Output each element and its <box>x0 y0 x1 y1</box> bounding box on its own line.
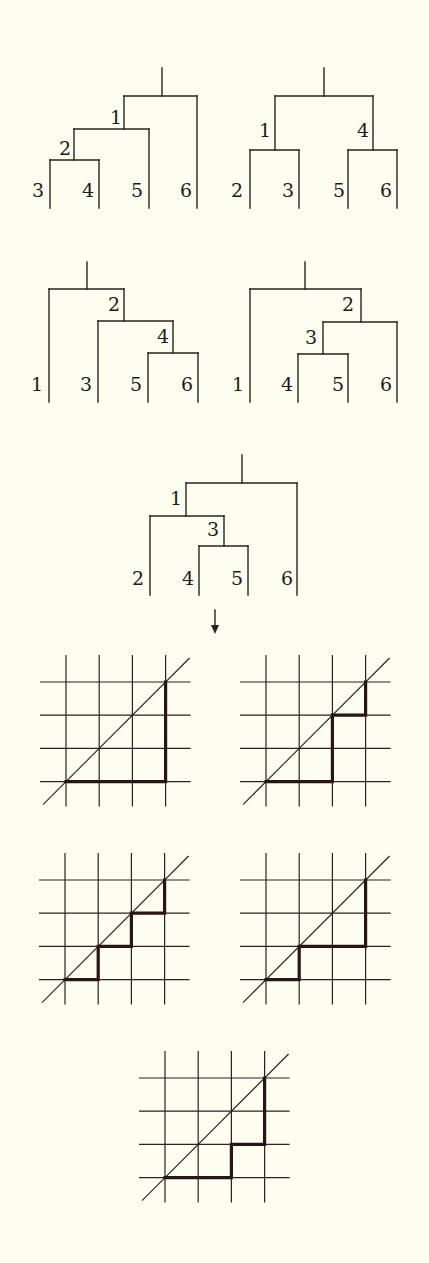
tree-node-label: 5 <box>131 179 143 201</box>
tree-node-label: 4 <box>182 567 194 589</box>
tree-node-label: 6 <box>380 179 392 201</box>
tree-node-label: 3 <box>305 326 317 348</box>
tree-node-label: 6 <box>281 567 293 589</box>
bracketing-tree: 231456 <box>232 262 397 402</box>
trees-layer: 123456142356241356231456132456 <box>31 68 397 595</box>
bracketing-tree: 123456 <box>32 68 197 208</box>
tree-node-label: 1 <box>170 487 182 509</box>
arrow-layer <box>211 610 219 634</box>
dyck-lattice <box>40 655 191 807</box>
figure-canvas: 123456142356241356231456132456 <box>0 0 429 1263</box>
tree-node-label: 3 <box>80 373 92 395</box>
tree-node-label: 4 <box>157 325 169 347</box>
tree-node-label: 2 <box>132 567 144 589</box>
tree-node-label: 4 <box>82 179 94 201</box>
tree-node-label: 5 <box>231 567 243 589</box>
tree-node-label: 6 <box>181 373 193 395</box>
tree-node-label: 6 <box>180 179 192 201</box>
tree-node-label: 1 <box>31 373 43 395</box>
bracketing-tree: 241356 <box>31 262 198 402</box>
tree-node-label: 3 <box>207 518 219 540</box>
dyck-lattice <box>240 853 391 1005</box>
tree-node-label: 3 <box>282 179 294 201</box>
dyck-lattice <box>39 853 190 1005</box>
tree-node-label: 4 <box>357 119 369 141</box>
lattice-layer <box>39 655 391 1203</box>
tree-node-label: 1 <box>259 119 271 141</box>
down-arrow-icon <box>211 625 219 634</box>
tree-node-label: 5 <box>332 373 344 395</box>
bracketing-tree: 132456 <box>132 455 297 595</box>
tree-node-label: 3 <box>32 179 44 201</box>
tree-node-label: 1 <box>110 106 122 128</box>
tree-node-label: 1 <box>232 373 244 395</box>
tree-node-label: 2 <box>342 293 354 315</box>
tree-node-label: 2 <box>59 137 71 159</box>
tree-node-label: 4 <box>281 373 293 395</box>
tree-node-label: 5 <box>333 179 345 201</box>
tree-node-label: 2 <box>108 293 120 315</box>
tree-node-label: 2 <box>231 179 243 201</box>
dyck-lattice <box>139 1051 290 1203</box>
bracketing-tree: 142356 <box>231 68 397 208</box>
tree-node-label: 5 <box>130 373 142 395</box>
tree-node-label: 6 <box>380 373 392 395</box>
dyck-lattice <box>240 655 391 807</box>
